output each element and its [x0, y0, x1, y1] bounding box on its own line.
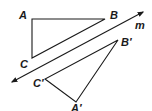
line-m-label: m [135, 19, 145, 31]
vertex-b-prime-label: B′ [121, 36, 133, 48]
vertex-c-prime-label: C′ [33, 77, 45, 89]
vertex-a-prime-label: A′ [70, 102, 83, 111]
vertex-b-label: B [110, 9, 118, 21]
triangle-a-prime-b-prime-c-prime [45, 40, 118, 102]
vertex-a-label: A [18, 9, 27, 21]
vertex-c-label: C [20, 58, 29, 70]
reflection-diagram: m A B C B′ C′ A′ [0, 0, 152, 111]
